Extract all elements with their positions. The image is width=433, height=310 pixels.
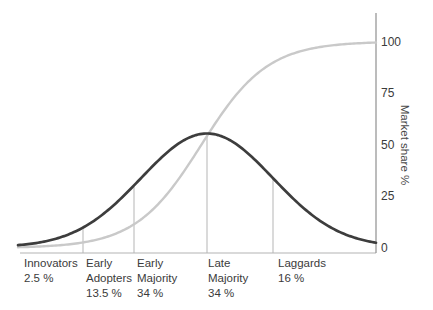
category-label-early-adopters: Early Adopters 13.5 %	[86, 256, 138, 301]
y-axis-title: Market share %	[399, 105, 411, 186]
category-label-late-majority: Late Majority 34 %	[208, 256, 260, 301]
category-percentage: 16 %	[278, 271, 330, 286]
diffusion-of-innovations-chart: 1007550250 Innovators 2.5 % Early Adopte…	[0, 0, 433, 310]
y-tick-label: 25	[381, 189, 395, 203]
category-label-innovators: Innovators 2.5 %	[24, 256, 84, 286]
category-percentage: 34 %	[137, 286, 189, 301]
s-curve-path	[18, 43, 376, 248]
category-name: Early Majority	[137, 256, 189, 286]
category-name: Late Majority	[208, 256, 260, 286]
category-name: Early Adopters	[86, 256, 138, 286]
y-tick-label: 50	[381, 138, 395, 152]
category-percentage: 13.5 %	[86, 286, 138, 301]
y-tick-label: 100	[381, 35, 401, 49]
category-percentage: 34 %	[208, 286, 260, 301]
category-label-laggards: Laggards 16 %	[278, 256, 330, 286]
category-percentage: 2.5 %	[24, 271, 84, 286]
category-label-early-majority: Early Majority 34 %	[137, 256, 189, 301]
category-name: Laggards	[278, 256, 330, 271]
y-tick-label: 75	[381, 86, 395, 100]
category-name: Innovators	[24, 256, 84, 271]
y-tick-label: 0	[381, 241, 388, 255]
